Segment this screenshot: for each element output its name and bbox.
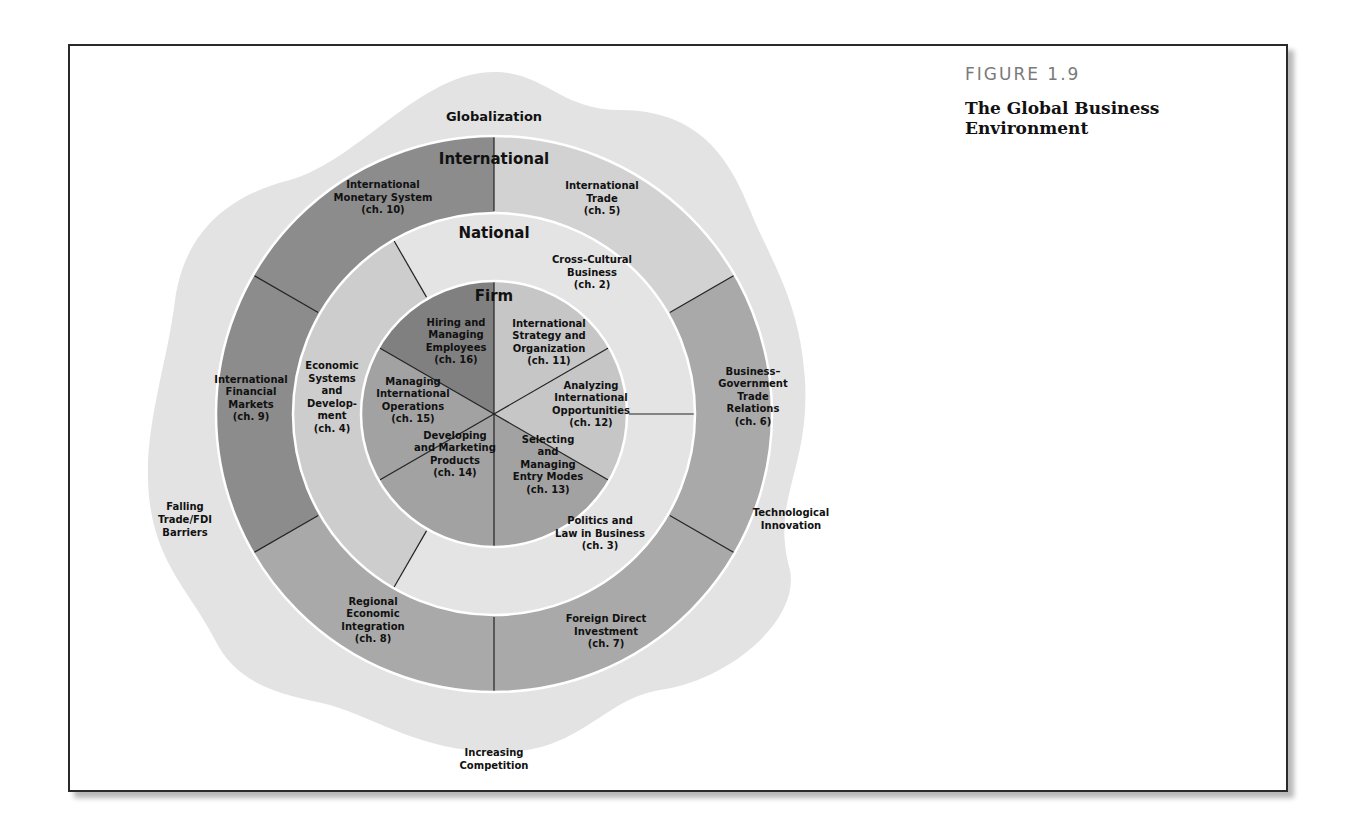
svg-text:Operations: Operations [382,401,444,412]
svg-text:International: International [565,180,639,191]
svg-text:Barriers: Barriers [162,527,207,538]
svg-text:(ch. 15): (ch. 15) [391,413,434,424]
svg-text:(ch. 2): (ch. 2) [574,279,610,290]
svg-text:(ch. 14): (ch. 14) [433,467,476,478]
ring-title-national: National [458,224,529,242]
svg-text:ment: ment [317,410,346,421]
svg-text:Products: Products [430,455,480,466]
svg-text:International: International [554,392,628,403]
svg-text:Selecting: Selecting [522,434,575,445]
svg-text:International: International [512,318,586,329]
svg-text:(ch. 16): (ch. 16) [434,354,477,365]
svg-text:Falling: Falling [166,501,204,512]
svg-text:Managing: Managing [520,459,575,470]
svg-text:Economic: Economic [305,360,358,371]
figure-caption: FIGURE 1.9 The Global Business Environme… [965,64,1225,138]
figure-title: The Global Business Environment [965,98,1225,138]
svg-text:Monetary System: Monetary System [334,192,433,203]
svg-text:Financial: Financial [226,386,277,397]
svg-text:International: International [376,388,450,399]
svg-text:Increasing: Increasing [465,747,524,758]
svg-text:Cross-Cultural: Cross-Cultural [552,254,632,265]
svg-text:Investment: Investment [574,626,638,637]
svg-text:(ch. 3): (ch. 3) [582,540,618,551]
svg-text:Politics and: Politics and [567,515,633,526]
svg-text:Employees: Employees [426,342,487,353]
svg-text:Business: Business [567,267,617,278]
svg-text:Developing: Developing [423,430,487,441]
svg-text:Entry Modes: Entry Modes [513,471,583,482]
svg-text:Managing: Managing [428,329,483,340]
svg-text:Relations: Relations [727,403,780,414]
svg-text:Analyzing: Analyzing [563,380,618,391]
svg-text:Integration: Integration [341,621,404,632]
svg-text:(ch. 9): (ch. 9) [233,411,269,422]
firm-sector-label: Hiring andManagingEmployees(ch. 16) [426,317,487,366]
svg-text:(ch. 10): (ch. 10) [361,204,404,215]
svg-text:Managing: Managing [385,376,440,387]
svg-text:Trade/FDI: Trade/FDI [158,514,212,525]
svg-text:Organization: Organization [513,343,586,354]
ring-title-firm: Firm [475,287,513,305]
svg-text:and: and [321,385,342,396]
svg-text:Hiring and: Hiring and [427,317,486,328]
svg-text:(ch. 11): (ch. 11) [527,355,570,366]
svg-text:(ch. 8): (ch. 8) [355,633,391,644]
svg-text:International: International [346,179,420,190]
svg-text:Trade: Trade [586,193,618,204]
svg-text:Business–: Business– [726,366,781,377]
svg-text:Law in Business: Law in Business [555,528,645,539]
svg-text:Government: Government [718,378,788,389]
force-label-increasing-competition: Increasing Competition [460,747,529,771]
svg-text:(ch. 13): (ch. 13) [526,484,569,495]
svg-text:Foreign Direct: Foreign Direct [566,613,647,624]
svg-text:and: and [537,446,558,457]
svg-text:Trade: Trade [737,391,769,402]
svg-text:Markets: Markets [228,399,274,410]
ring-title-international: International [439,150,549,168]
svg-text:Technological: Technological [753,507,829,518]
svg-text:(ch. 12): (ch. 12) [569,417,612,428]
svg-text:(ch. 4): (ch. 4) [314,423,350,434]
svg-text:and Marketing: and Marketing [414,442,496,453]
svg-text:Innovation: Innovation [761,520,821,531]
svg-text:(ch. 5): (ch. 5) [584,205,620,216]
svg-text:Systems: Systems [308,373,356,384]
svg-text:(ch. 7): (ch. 7) [588,638,624,649]
force-label-globalization: Globalization [446,109,542,124]
svg-text:International: International [214,374,288,385]
figure-number: FIGURE 1.9 [965,64,1225,84]
svg-text:Develop-: Develop- [307,398,357,409]
svg-text:Regional: Regional [348,596,397,607]
svg-text:Strategy and: Strategy and [512,330,585,341]
svg-text:(ch. 6): (ch. 6) [735,416,771,427]
svg-text:Economic: Economic [346,608,399,619]
svg-text:Competition: Competition [460,760,529,771]
svg-text:Opportunities: Opportunities [552,405,630,416]
